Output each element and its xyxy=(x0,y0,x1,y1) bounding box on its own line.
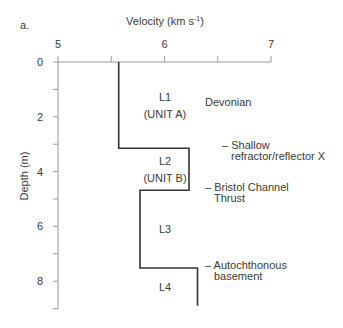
y-axis-title: Depth (m) xyxy=(18,152,30,201)
x-tick-label: 5 xyxy=(55,38,61,50)
annotation-text: refractor/reflector X xyxy=(231,150,326,162)
layer-label: L3 xyxy=(159,223,171,235)
annotation-text: Devonian xyxy=(205,96,251,108)
x-tick-label: 6 xyxy=(161,38,167,50)
y-tick-label: 0 xyxy=(37,56,43,68)
annotation-text: Thrust xyxy=(214,192,245,204)
annotation-text: basement xyxy=(214,270,262,282)
y-tick-label: 4 xyxy=(37,166,43,178)
y-axis: 02468 xyxy=(37,56,58,309)
x-tick-label: 7 xyxy=(268,38,274,50)
unit-label: (UNIT B) xyxy=(143,172,186,184)
layer-label: L2 xyxy=(159,155,171,167)
x-axis: 567 xyxy=(55,38,274,62)
layer-label: L1 xyxy=(159,91,171,103)
x-axis-title: Velocity (km s-1) xyxy=(126,15,204,27)
y-tick-label: 8 xyxy=(37,275,43,287)
unit-label: (UNIT A) xyxy=(144,108,187,120)
layer-labels: L1(UNIT A)L2(UNIT B)L3L4 xyxy=(143,91,186,293)
layer-label: L4 xyxy=(159,281,171,293)
y-tick-label: 2 xyxy=(37,111,43,123)
y-tick-label: 6 xyxy=(37,220,43,232)
panel-label: a. xyxy=(20,19,29,31)
velocity-depth-chart: a. Velocity (km s-1) 567 02468 Depth (m)… xyxy=(0,0,343,328)
annotations: Devonian– Shallowrefractor/reflector X– … xyxy=(205,96,326,282)
